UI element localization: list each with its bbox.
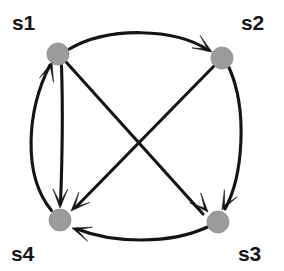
edge-s1-to-s3 xyxy=(67,63,204,215)
node-label-s3: s3 xyxy=(238,242,261,265)
edge-s1-to-s2 xyxy=(69,33,209,50)
graph-canvas: s1 s2 s3 s4 xyxy=(0,0,284,271)
edge-s1-to-s4 xyxy=(61,66,63,205)
node-s4[interactable] xyxy=(49,209,71,231)
graph-figure: s1 s2 s3 s4 xyxy=(0,0,284,271)
edge-s2-to-s3 xyxy=(225,68,241,210)
edge-s3-to-s4 xyxy=(77,227,209,240)
node-s1[interactable] xyxy=(47,43,69,65)
edge-s4-to-s1 xyxy=(31,65,51,211)
node-label-s2: s2 xyxy=(241,11,264,34)
edge-s2-to-s4 xyxy=(76,67,214,208)
node-s2[interactable] xyxy=(211,47,233,69)
node-label-s4: s4 xyxy=(11,242,34,265)
node-label-s1: s1 xyxy=(12,11,35,34)
node-s3[interactable] xyxy=(207,211,229,233)
